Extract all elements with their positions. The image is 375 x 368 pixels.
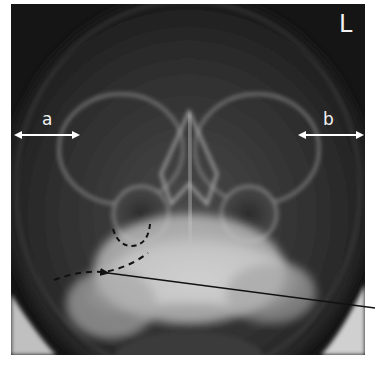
annotation-overlay [0,0,375,368]
pointer-arrow [108,273,375,308]
sinus-floor-dashed-outline [113,224,150,246]
